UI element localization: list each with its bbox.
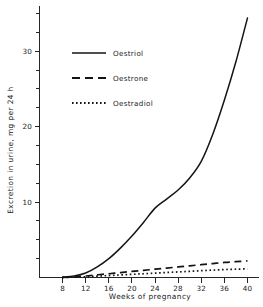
x-axis-title: Weeks of pregnancy	[109, 292, 191, 301]
x-tick-label: 40	[243, 284, 253, 293]
legend-label-oestrone: Oestrone	[113, 74, 148, 83]
legend-label-oestriol: Oestriol	[113, 49, 143, 58]
series-line-oestriol	[63, 18, 248, 277]
y-tick-label: 30	[22, 47, 32, 56]
y-axis-tick-labels: 102030	[22, 47, 32, 207]
x-tick-label: 12	[81, 284, 91, 293]
y-axis-major-ticks	[35, 51, 40, 202]
legend-label-oestradiol: Oestradiol	[113, 99, 153, 108]
x-tick-label: 36	[220, 284, 230, 293]
y-tick-label: 20	[22, 122, 32, 131]
series-line-oestrone	[63, 261, 248, 277]
x-tick-label: 8	[60, 284, 65, 293]
x-tick-label: 32	[196, 284, 206, 293]
line-chart: 102030 81216202428323640 OestriolOestron…	[0, 0, 263, 307]
chart-figure: 102030 81216202428323640 OestriolOestron…	[0, 0, 263, 307]
y-axis-title: Excretion in urine, mg per 24 h	[6, 86, 15, 213]
chart-legend: OestriolOestroneOestradiol	[72, 49, 153, 108]
y-tick-label: 10	[22, 198, 32, 207]
x-axis-ticks	[63, 278, 248, 283]
axes-group	[40, 6, 260, 278]
data-series-group	[63, 18, 248, 277]
